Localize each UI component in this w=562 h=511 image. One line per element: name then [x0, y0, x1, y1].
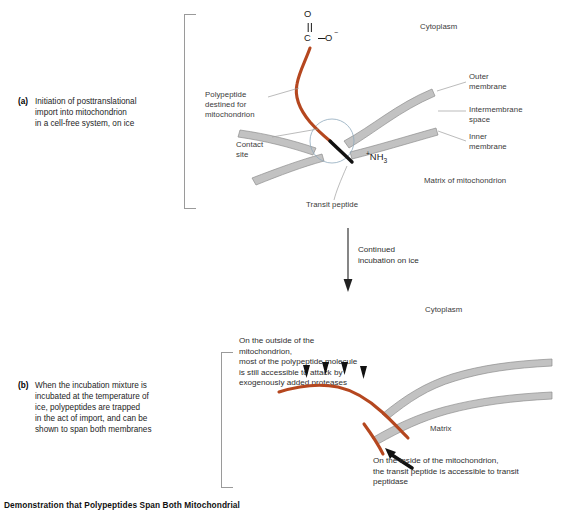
polypeptide-chain-b-inner	[364, 424, 383, 454]
label-matrix-b: Matrix	[430, 424, 452, 434]
amino-group-label: +NH3	[366, 150, 387, 164]
leader-outer-membrane	[437, 82, 466, 91]
carboxyl-carbon-label: C	[304, 32, 311, 43]
label-intermembrane-space: Intermembrane space	[469, 105, 523, 125]
amino-nh-text: NH	[370, 151, 384, 162]
leader-transit-peptide	[334, 166, 347, 200]
leader-polypeptide	[268, 88, 299, 97]
panel-b-bracket	[221, 352, 222, 488]
label-cytoplasm-a: Cytoplasm	[420, 22, 457, 32]
protease-arrow	[360, 366, 367, 379]
label-transit-peptide: Transit peptide	[306, 200, 358, 210]
leader-contact-site	[272, 129, 318, 137]
polypeptide-chain	[296, 48, 330, 141]
leader-inner-membrane	[438, 131, 466, 141]
figure-caption: Demonstration that Polypeptides Span Bot…	[0, 500, 562, 510]
label-polypeptide: Polypeptide destined for mitochondrion	[205, 90, 255, 121]
label-contact-site: Contact site	[236, 140, 263, 160]
panel-b-description: When the incubation mixture is incubated…	[35, 381, 200, 436]
transition-label: Continued incubation on ice	[358, 245, 419, 266]
transition-arrow-head	[344, 279, 353, 292]
caption-text: Demonstration that Polypeptides Span Bot…	[4, 500, 240, 510]
label-outer-membrane: Outer membrane	[469, 72, 507, 92]
polypeptide-chain-b	[279, 385, 408, 438]
contact-site-circle	[310, 119, 354, 163]
transit-peptide-chain	[330, 141, 352, 162]
amino-subscript: 3	[383, 157, 387, 164]
outer-membrane-band-b	[382, 359, 552, 419]
label-inside-note: On the inside of the mitochondrion, the …	[373, 456, 519, 488]
inner-membrane-right-band	[350, 128, 438, 159]
label-cytoplasm-b: Cytoplasm	[425, 305, 462, 315]
label-matrix-a: Matrix of mitochondrion	[424, 176, 506, 186]
inner-membrane-band-b	[372, 392, 552, 444]
carboxyl-oxygen-label: O	[304, 8, 311, 19]
figure-root: (a) Initiation of posttranslational impo…	[0, 0, 562, 511]
label-outside-note: On the outside of the mitochondrion, mos…	[239, 336, 357, 389]
panel-b-tag: (b)	[18, 381, 28, 390]
outer-membrane-right-band	[344, 89, 435, 148]
panel-a-tag: (a)	[18, 97, 28, 106]
carboxyl-oxygen-minus-label: O	[325, 32, 332, 43]
label-inner-membrane: Inner membrane	[469, 132, 507, 152]
carboxyl-negative-charge: −	[334, 29, 338, 36]
panel-a-description: Initiation of posttranslational import i…	[35, 97, 185, 130]
